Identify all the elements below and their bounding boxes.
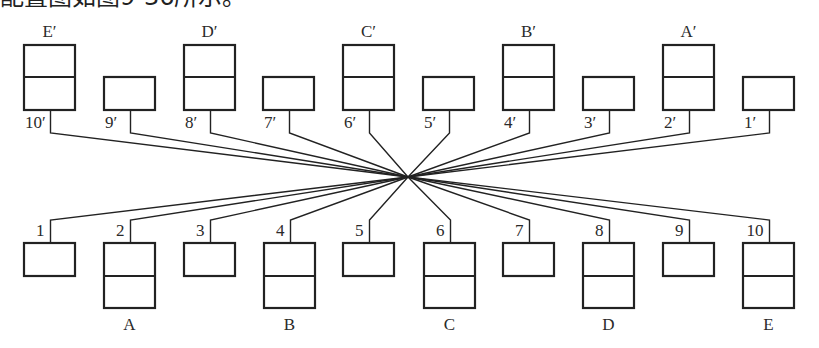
bottom-unit-8 bbox=[583, 243, 634, 308]
single-box bbox=[503, 243, 554, 276]
bottom-unit-4 bbox=[264, 243, 315, 308]
port-label: 10′ bbox=[25, 113, 46, 132]
wire bbox=[408, 110, 690, 177]
single-box bbox=[663, 243, 714, 276]
port-label: 7′ bbox=[264, 113, 276, 132]
bottom-unit-10 bbox=[743, 243, 794, 308]
top-unit-8 bbox=[583, 77, 634, 110]
top-unit-5 bbox=[343, 45, 394, 110]
single-box bbox=[343, 243, 394, 276]
bottom-unit-3 bbox=[184, 243, 235, 276]
wire bbox=[408, 177, 770, 243]
top-unit-4 bbox=[263, 77, 314, 110]
port-label: 1 bbox=[36, 221, 45, 240]
single-box bbox=[24, 243, 75, 276]
wire bbox=[370, 110, 409, 177]
bottom-unit-6 bbox=[424, 243, 475, 308]
top-unit-9 bbox=[663, 45, 714, 110]
top-unit-1 bbox=[24, 45, 75, 110]
wire bbox=[131, 177, 409, 243]
port-label: 8′ bbox=[185, 113, 197, 132]
port-label: 9′ bbox=[105, 113, 117, 132]
port-label: 6 bbox=[436, 221, 445, 240]
bottom-unit-5 bbox=[343, 243, 394, 276]
port-label: 2 bbox=[116, 221, 125, 240]
port-label: 5 bbox=[355, 221, 364, 240]
port-label: 3′ bbox=[584, 113, 596, 132]
single-box bbox=[104, 77, 155, 110]
port-label: 10 bbox=[747, 221, 764, 240]
wire-layer bbox=[51, 110, 770, 243]
unit-label: E′ bbox=[42, 22, 56, 41]
port-label: 8 bbox=[595, 221, 604, 240]
unit-label: A′ bbox=[681, 22, 697, 41]
unit-label: D′ bbox=[202, 22, 218, 41]
top-unit-7 bbox=[503, 45, 554, 110]
unit-label: C bbox=[444, 315, 455, 334]
unit-label: E bbox=[763, 315, 773, 334]
port-label: 6′ bbox=[344, 113, 356, 132]
wire bbox=[291, 177, 409, 243]
unit-label: C′ bbox=[361, 22, 376, 41]
single-box bbox=[263, 77, 314, 110]
port-label: 9 bbox=[675, 221, 684, 240]
unit-label: D bbox=[602, 315, 614, 334]
top-unit-10 bbox=[743, 77, 794, 110]
single-box bbox=[583, 77, 634, 110]
port-label: 3 bbox=[196, 221, 205, 240]
unit-label: A bbox=[123, 315, 136, 334]
single-box bbox=[184, 243, 235, 276]
top-unit-3 bbox=[184, 45, 235, 110]
wire bbox=[370, 177, 409, 243]
port-label: 4 bbox=[276, 221, 285, 240]
unit-label: B′ bbox=[521, 22, 536, 41]
top-unit-6 bbox=[423, 77, 474, 110]
port-label: 2′ bbox=[664, 113, 676, 132]
bottom-unit-7 bbox=[503, 243, 554, 276]
single-box bbox=[743, 77, 794, 110]
single-box bbox=[423, 77, 474, 110]
top-unit-2 bbox=[104, 77, 155, 110]
bottom-unit-1 bbox=[24, 243, 75, 276]
bottom-unit-9 bbox=[663, 243, 714, 276]
port-label: 4′ bbox=[504, 113, 516, 132]
bottom-unit-2 bbox=[104, 243, 155, 308]
port-label: 5′ bbox=[424, 113, 436, 132]
port-label: 7 bbox=[515, 221, 524, 240]
wiring-diagram: E′10′9′D′8′7′C′6′5′B′4′3′A′2′1′1A23B45C6… bbox=[0, 0, 819, 348]
port-label: 1′ bbox=[744, 113, 756, 132]
unit-label: B bbox=[284, 315, 295, 334]
